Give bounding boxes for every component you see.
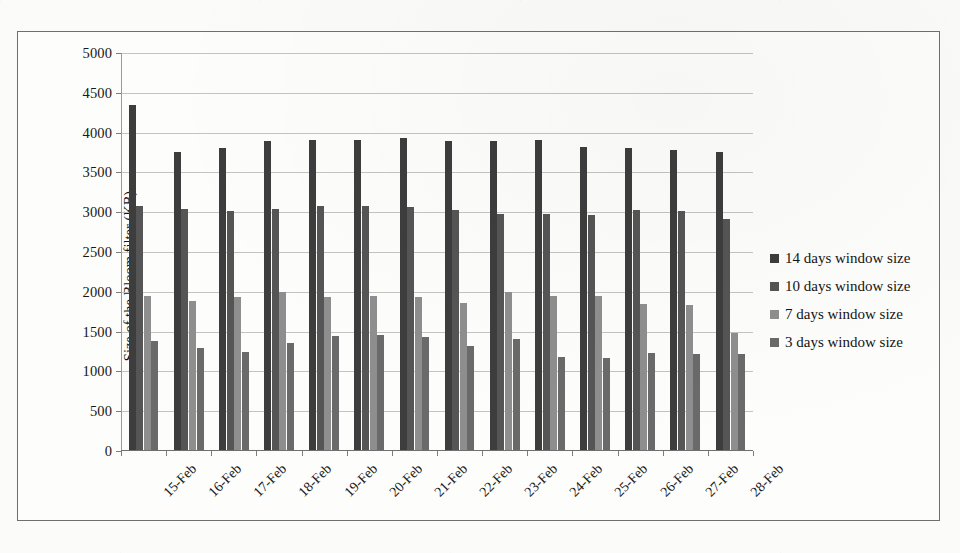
gridline (121, 332, 753, 333)
gridline (121, 292, 753, 293)
legend-label: 10 days window size (785, 278, 910, 295)
bar-group (445, 52, 475, 450)
bar (309, 140, 316, 450)
bar-group (129, 52, 159, 450)
x-tick-mark (211, 451, 212, 456)
x-tick-label: 21-Feb (431, 461, 470, 500)
gridline (121, 212, 753, 213)
x-tick-label: 16-Feb (206, 461, 245, 500)
legend-item: 14 days window size (770, 244, 910, 272)
x-tick-mark (572, 451, 573, 456)
bar-group (219, 52, 249, 450)
y-tick-label: 5000 (83, 45, 112, 62)
gridline (121, 93, 753, 94)
x-tick-mark (618, 451, 619, 456)
legend-item: 7 days window size (770, 300, 910, 328)
x-tick-mark (482, 451, 483, 456)
x-tick-mark (256, 451, 257, 456)
y-tick-label: 4500 (83, 84, 112, 101)
bar (490, 141, 497, 450)
bar (738, 354, 745, 450)
x-tick-mark (392, 451, 393, 456)
x-tick-mark (753, 451, 754, 456)
bar-group (580, 52, 610, 450)
x-tick-label: 24-Feb (567, 461, 606, 500)
bar (151, 341, 158, 450)
bar (543, 214, 550, 450)
bar-group (535, 52, 565, 450)
bar (332, 336, 339, 450)
bar (731, 333, 738, 450)
bar (445, 141, 452, 450)
x-tick-label: 19-Feb (341, 461, 380, 500)
x-tick-label: 26-Feb (657, 461, 696, 500)
bar (716, 152, 723, 450)
gridline (121, 371, 753, 372)
bar (370, 296, 377, 450)
x-tick-mark (302, 451, 303, 456)
x-tick-mark (527, 451, 528, 456)
y-tick-label: 1000 (83, 363, 112, 380)
bar-group (309, 52, 339, 450)
bar (693, 354, 700, 450)
x-tick-label: 18-Feb (296, 461, 335, 500)
bar (234, 297, 241, 450)
bar (670, 150, 677, 450)
x-tick-label: 20-Feb (386, 461, 425, 500)
bar-group (670, 52, 700, 450)
chart-legend: 14 days window size10 days window size7 … (770, 244, 910, 356)
bar-group (354, 52, 384, 450)
x-tick-label: 28-Feb (747, 461, 786, 500)
bar (588, 215, 595, 450)
legend-swatch-icon (770, 282, 779, 291)
x-tick-mark (347, 451, 348, 456)
legend-swatch-icon (770, 338, 779, 347)
bar (640, 304, 647, 450)
bar (513, 339, 520, 450)
bar (452, 210, 459, 450)
scanned-page: Size of the Bloom filter (KB) 0500100015… (0, 0, 960, 553)
bar-group (174, 52, 204, 450)
bar (287, 343, 294, 450)
gridline (121, 133, 753, 134)
bar (603, 358, 610, 450)
bar (625, 148, 632, 450)
bar (272, 209, 279, 450)
bar (317, 206, 324, 450)
x-tick-label: 17-Feb (251, 461, 290, 500)
bar (129, 105, 136, 450)
bar-group (400, 52, 430, 450)
x-tick-mark (708, 451, 709, 456)
bar (422, 337, 429, 450)
x-tick-label: 22-Feb (477, 461, 516, 500)
legend-swatch-icon (770, 254, 779, 263)
bar (227, 211, 234, 450)
bar (558, 357, 565, 450)
gridline (121, 252, 753, 253)
legend-label: 14 days window size (785, 250, 910, 267)
bar (362, 206, 369, 450)
bar (505, 292, 512, 450)
bar (678, 211, 685, 450)
y-tick-label: 3000 (83, 204, 112, 221)
bar-group (490, 52, 520, 450)
bar (550, 296, 557, 450)
bar (407, 207, 414, 450)
bar (189, 301, 196, 450)
x-tick-label: 23-Feb (522, 461, 561, 500)
bar (460, 303, 467, 450)
plot-area: 0500100015002000250030003500400045005000… (121, 53, 753, 451)
bar (144, 296, 151, 450)
bar (242, 352, 249, 450)
legend-label: 3 days window size (785, 334, 903, 351)
bar (219, 148, 226, 450)
bar (535, 140, 542, 450)
y-tick-label: 2500 (83, 244, 112, 261)
y-tick-label: 2000 (83, 283, 112, 300)
gridline (121, 53, 753, 54)
bar (279, 292, 286, 450)
x-tick-label: 27-Feb (702, 461, 741, 500)
x-tick-label: 25-Feb (612, 461, 651, 500)
bar (467, 346, 474, 450)
bar-group (716, 52, 746, 450)
